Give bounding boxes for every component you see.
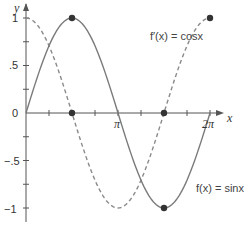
y-tick-label-neg1: −1 bbox=[4, 203, 17, 215]
sin-series-label: f(x) = sinx bbox=[196, 182, 244, 194]
y-tick-label-neg0.5: −.5 bbox=[4, 155, 20, 167]
data-point bbox=[161, 205, 167, 211]
cos-series-label: f′(x) = cosx bbox=[150, 30, 204, 42]
data-point bbox=[69, 15, 75, 21]
y-axis-arrow-icon bbox=[23, 3, 29, 11]
y-tick-label-0: 0 bbox=[12, 107, 18, 119]
y-tick-label-1: 1 bbox=[12, 12, 18, 24]
data-point bbox=[69, 110, 75, 116]
x-tick-label-2pi: 2π bbox=[202, 117, 215, 131]
data-point bbox=[161, 110, 167, 116]
data-point bbox=[207, 15, 213, 21]
x-tick-label-pi: π bbox=[114, 117, 121, 131]
x-axis-label: x bbox=[226, 111, 233, 125]
x-axis-arrow-icon bbox=[216, 110, 224, 116]
y-tick-label-0.5: .5 bbox=[9, 59, 18, 71]
chart: y x 1 .5 0 −.5 −1 π 2π f′(x) = cosx f(x)… bbox=[0, 0, 251, 226]
